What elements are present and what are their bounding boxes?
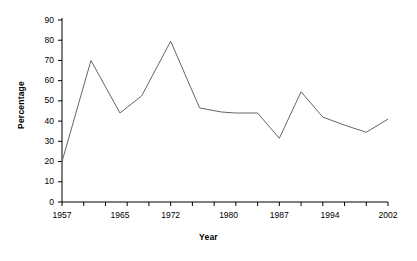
data-series <box>62 41 388 161</box>
line-chart: Percentage 9080706050403020100 195719651… <box>0 0 417 261</box>
x-axis-title: Year <box>0 232 417 242</box>
data-line <box>62 41 388 161</box>
x-axis-title-text: Year <box>199 232 218 242</box>
plot-area <box>0 0 417 261</box>
